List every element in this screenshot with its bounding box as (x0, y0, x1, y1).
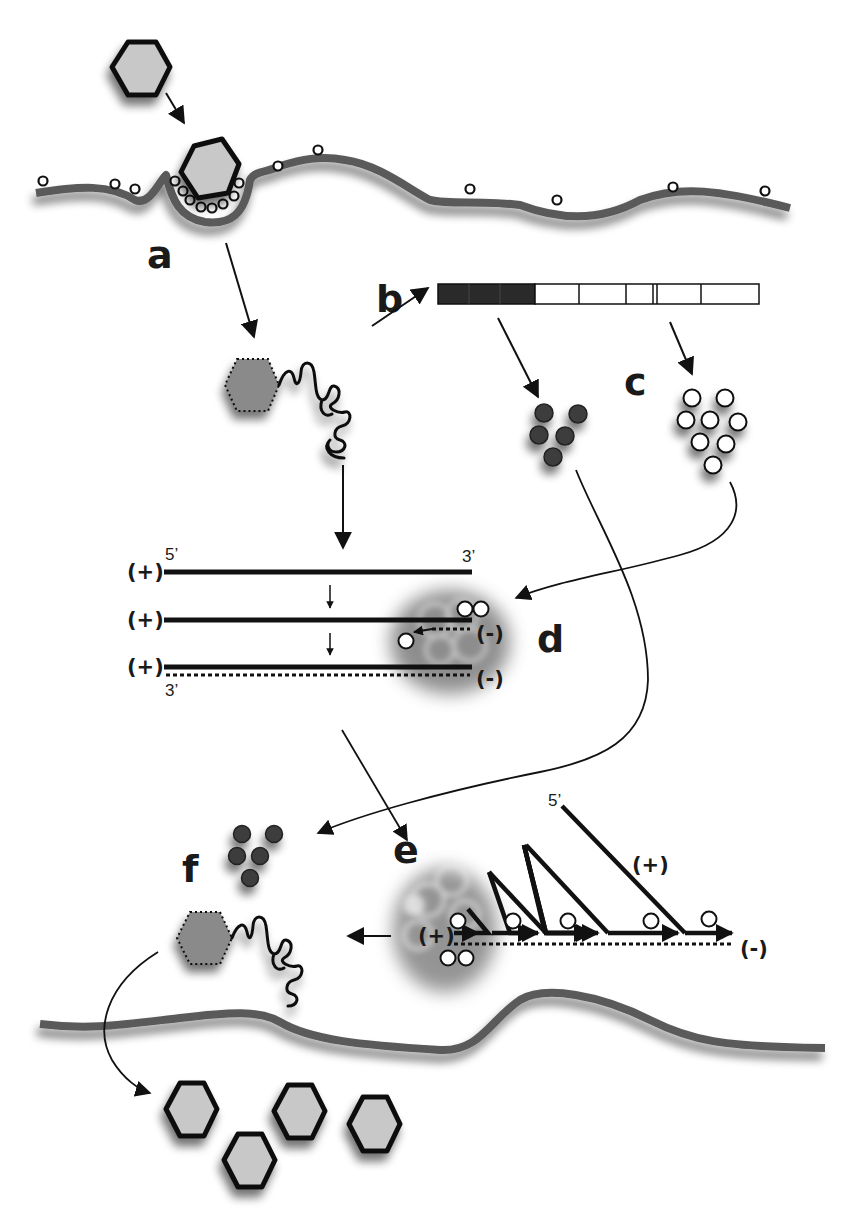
nascent-strands-long (489, 806, 732, 933)
arrow-d-to-e (342, 730, 407, 840)
step-label-e: e (393, 828, 419, 872)
arrow-to-light-proteins (670, 322, 692, 374)
structural-proteins-light (678, 390, 747, 474)
bottom-membrane (40, 993, 825, 1050)
five-prime-label-1: 5’ (165, 545, 178, 564)
minus-label-3: (-) (476, 667, 504, 691)
polyprotein-bar (438, 284, 759, 304)
step-label-d: d (537, 617, 564, 661)
viral-replication-diagram: a b c (0, 0, 860, 1222)
step-label-c: c (624, 360, 647, 404)
nonstructural-proteins-dark (530, 404, 587, 466)
progeny-virion-4 (349, 1097, 400, 1151)
progeny-virions (166, 1083, 400, 1187)
rna-strand-1: (+) 5’ 3’ (127, 545, 475, 584)
five-prime-label-e: 5’ (548, 791, 561, 810)
minus-label-2: (-) (476, 622, 504, 646)
receptor-group (39, 146, 770, 213)
step-label-f: f (182, 847, 199, 891)
progeny-virion-3 (274, 1085, 325, 1138)
arrow-to-dark-proteins (498, 318, 538, 397)
plus-label-3: (+) (127, 655, 164, 679)
arrow-attach (166, 93, 184, 123)
virion-entering (181, 139, 239, 198)
plus-label-1: (+) (127, 560, 164, 584)
minus-label-e: (-) (740, 937, 768, 961)
arrow-a (226, 243, 254, 337)
virion-incoming (112, 42, 170, 95)
assembling-virion-f (177, 912, 302, 1006)
uncoated-capsid-rna (225, 359, 350, 458)
three-prime-label-3: 3’ (165, 681, 178, 700)
progeny-virion-2 (224, 1134, 275, 1187)
plus-label-e-strand: (+) (632, 853, 669, 877)
dark-proteins-f (229, 826, 283, 887)
plus-label-2: (+) (127, 608, 164, 632)
diagram-canvas: a b c (0, 0, 860, 1222)
progeny-virion-1 (166, 1083, 217, 1136)
plus-label-e: (+) (418, 924, 455, 948)
three-prime-label-1: 3’ (462, 547, 475, 566)
step-label-a: a (147, 233, 173, 277)
